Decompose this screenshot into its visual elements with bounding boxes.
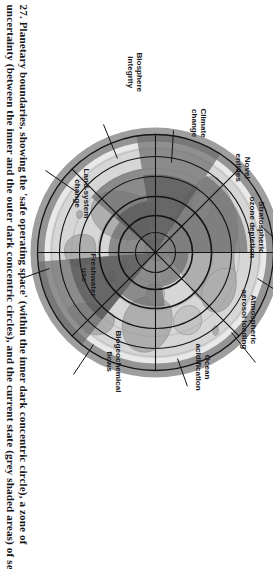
label-line-1: Biogeochemical: [113, 330, 122, 392]
label-line-2: use: [78, 253, 87, 296]
label-novel-entities: Novel entities: [232, 153, 251, 181]
label-line-1: Novel: [242, 153, 251, 181]
label-line-2: acidification: [192, 343, 201, 390]
label-line-2: entities: [232, 153, 241, 181]
label-line-1: Freshwater: [88, 253, 97, 296]
label-biogeochemical-flows: Biogeochemical flows: [103, 330, 122, 392]
label-freshwater-use: Freshwater use: [78, 253, 97, 296]
label-land-system-change: Land-system change: [71, 168, 90, 218]
label-line-2: ozone depletion: [246, 196, 255, 258]
caption-line-1: 27. Planetary boundaries, showing the 's…: [16, 4, 30, 565]
label-line-2: change: [71, 168, 80, 218]
figure-page: Climate change Novel entities Stratosphe…: [0, 0, 273, 569]
label-line-1: Ocean: [202, 343, 211, 390]
label-line-2: integrity: [124, 52, 133, 92]
rotated-page-stage: Climate change Novel entities Stratosphe…: [0, 0, 273, 569]
label-line-1: Atmospheric: [248, 289, 257, 349]
label-line-2: flows: [103, 330, 112, 392]
label-line-1: Biosphere: [134, 52, 143, 92]
label-biosphere-integrity: Biosphere integrity: [124, 52, 143, 92]
label-line-2: change: [188, 108, 197, 137]
label-atmospheric-aerosol-loading: Atmospheric aerosol loading: [238, 289, 257, 349]
caption-line-2: uncertainty (between the inner and the o…: [2, 4, 16, 565]
label-climate-change: Climate change: [188, 108, 207, 137]
label-stratospheric-ozone-depletion: Stratospheric ozone depletion: [246, 196, 265, 258]
label-line-2: aerosol loading: [238, 289, 247, 349]
label-line-1: Climate: [198, 108, 207, 137]
planetary-boundaries-diagram: Climate change Novel entities Stratosphe…: [33, 0, 273, 569]
label-line-1: Stratospheric: [256, 196, 265, 258]
label-line-1: Land-system: [81, 168, 90, 218]
figure-caption: 27. Planetary boundaries, showing the 's…: [2, 4, 29, 565]
label-ocean-acidification: Ocean acidification: [192, 343, 211, 390]
